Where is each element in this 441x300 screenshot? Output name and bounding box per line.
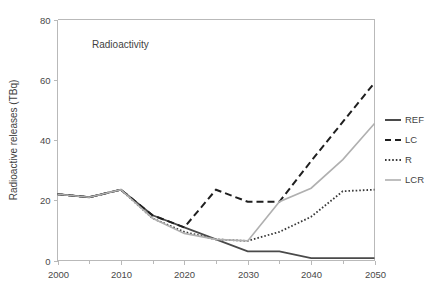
- legend-label-r: R: [405, 154, 412, 165]
- y-axis-ticks: [54, 21, 58, 262]
- data-series-group: [58, 83, 375, 258]
- legend-label-lcr: LCR: [405, 174, 424, 185]
- x-axis-ticks: [59, 261, 376, 265]
- plot-annotation-radioactivity: Radioactivity: [92, 39, 149, 50]
- y-tick-label-60: 60: [40, 75, 51, 86]
- legend-item-r[interactable]: R: [385, 154, 412, 165]
- series-line-r: [58, 190, 375, 241]
- legend-item-lc[interactable]: LC: [385, 134, 417, 145]
- radioactivity-line-chart: 020406080 200020102020203020402050 Radio…: [0, 0, 441, 300]
- x-tick-label-2020: 2020: [174, 269, 195, 280]
- chart-canvas: 020406080 200020102020203020402050 Radio…: [0, 0, 441, 300]
- y-axis-tick-labels: 020406080: [40, 15, 51, 267]
- y-axis-title: Radioactive releases (TBq): [8, 80, 19, 201]
- series-line-lc: [58, 83, 375, 228]
- y-tick-label-40: 40: [40, 135, 51, 146]
- x-tick-label-2010: 2010: [111, 269, 132, 280]
- legend-label-lc: LC: [405, 134, 417, 145]
- chart-legend: REFLCRLCR: [385, 114, 424, 185]
- x-tick-label-2050: 2050: [365, 269, 386, 280]
- x-tick-label-2040: 2040: [301, 269, 322, 280]
- legend-item-ref[interactable]: REF: [385, 114, 424, 125]
- legend-item-lcr[interactable]: LCR: [385, 174, 424, 185]
- y-tick-label-20: 20: [40, 195, 51, 206]
- x-axis-tick-labels: 200020102020203020402050: [48, 269, 386, 280]
- y-tick-label-80: 80: [40, 15, 51, 26]
- x-tick-label-2030: 2030: [238, 269, 259, 280]
- series-line-ref: [58, 190, 375, 258]
- y-tick-label-0: 0: [45, 256, 50, 267]
- legend-label-ref: REF: [405, 114, 424, 125]
- x-tick-label-2000: 2000: [48, 269, 69, 280]
